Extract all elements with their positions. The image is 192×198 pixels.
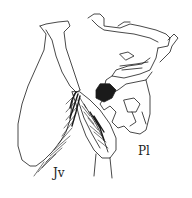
valve-left [18, 21, 80, 166]
label-pl: Pl [138, 144, 150, 158]
label-jv: Jv [53, 166, 65, 180]
illustration [0, 0, 192, 198]
setose-lobe [72, 92, 116, 178]
plate-structures [88, 14, 178, 134]
setae [34, 96, 108, 176]
dark-sclerite [96, 84, 116, 102]
